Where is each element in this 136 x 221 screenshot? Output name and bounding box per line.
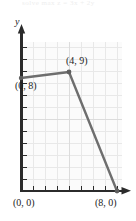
vertex-marker-8-0 — [115, 189, 120, 194]
graph-figure: solve max z = 3x + 2y — [0, 0, 136, 221]
vertex-marker-4-9 — [67, 70, 72, 75]
point-label-0-0: (0, 0) — [13, 198, 35, 208]
x-axis-arrow — [122, 187, 132, 194]
coordinate-plane-svg — [0, 0, 136, 221]
y-axis-label: y — [15, 17, 19, 27]
point-label-0-8: (0, 8) — [15, 81, 37, 91]
point-label-8-0: (8, 0) — [95, 198, 117, 208]
point-label-4-9: (4, 9) — [66, 56, 88, 66]
